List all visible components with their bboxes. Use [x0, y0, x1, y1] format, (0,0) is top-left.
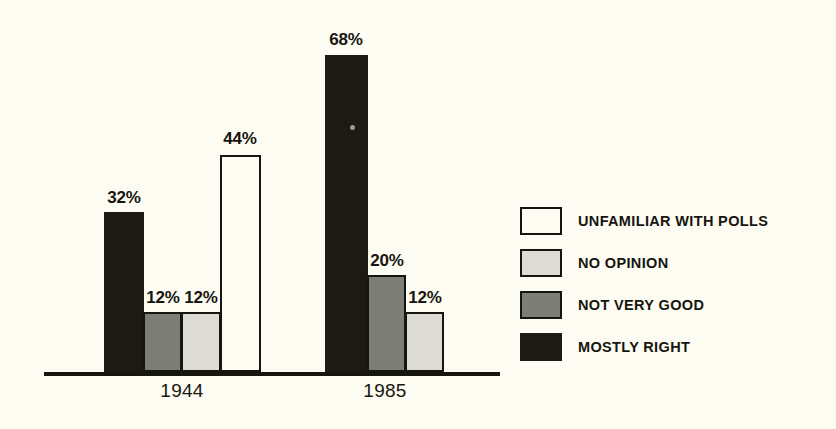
legend-swatch-unfamiliar-with-polls [520, 207, 562, 235]
legend-item-not-very-good: NOT VERY GOOD [520, 290, 704, 320]
scan-speck-artifact [350, 125, 355, 130]
legend-label-mostly-right: MOSTLY RIGHT [578, 339, 690, 355]
bar-1985-no-opinion [405, 312, 444, 372]
legend-label-no-opinion: NO OPINION [578, 255, 669, 271]
legend-label-not-very-good: NOT VERY GOOD [578, 297, 704, 313]
bar-chart: 32% 12% 12% 44% 1944 68% 20% 12% 1985 UN… [0, 0, 836, 429]
legend-item-no-opinion: NO OPINION [520, 248, 669, 278]
bar-1944-unfamiliar-with-polls [220, 155, 261, 372]
x-axis-line [44, 372, 500, 376]
bar-value-1985-not-very-good: 20% [347, 251, 427, 271]
bar-1944-no-opinion [181, 312, 221, 372]
bar-value-1944-unfamiliar-with-polls: 44% [200, 129, 280, 149]
bar-1944-not-very-good [143, 312, 182, 372]
x-tick-label-1944: 1944 [142, 380, 222, 402]
legend-item-unfamiliar-with-polls: UNFAMILIAR WITH POLLS [520, 206, 768, 236]
legend-swatch-not-very-good [520, 291, 562, 319]
x-tick-label-1985: 1985 [345, 380, 425, 402]
bar-1985-mostly-right [325, 55, 368, 372]
plot-area: 32% 12% 12% 44% 1944 68% 20% 12% 1985 [0, 0, 520, 429]
legend-label-unfamiliar-with-polls: UNFAMILIAR WITH POLLS [578, 213, 768, 229]
legend-swatch-no-opinion [520, 249, 562, 277]
bar-value-1985-no-opinion: 12% [385, 288, 465, 308]
legend-swatch-mostly-right [520, 333, 562, 361]
bar-value-1985-mostly-right: 68% [306, 30, 386, 50]
legend-item-mostly-right: MOSTLY RIGHT [520, 332, 690, 362]
bar-value-1944-mostly-right: 32% [84, 188, 164, 208]
